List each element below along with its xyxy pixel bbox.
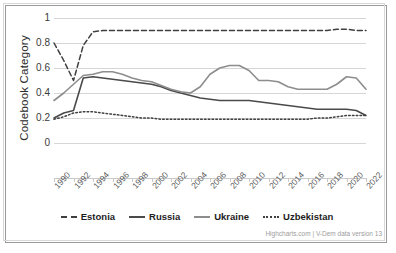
x-axis-tick-label: 1990 (52, 170, 72, 191)
chart-frame: Codebook Category 00.20.40.60.81 1990199… (5, 5, 387, 243)
chart-container: Codebook Category 00.20.40.60.81 1990199… (6, 6, 388, 244)
x-axis-tick-label: 2014 (286, 170, 306, 191)
x-axis-tick-label: 2022 (364, 170, 384, 191)
y-axis-tick-label: 0.6 (10, 63, 50, 73)
x-axis-tick-label: 2002 (169, 170, 189, 191)
legend-item-uzbekistan[interactable]: Uzbekistan (263, 211, 333, 222)
x-axis-tick-label: 1992 (72, 170, 92, 191)
x-axis-tick-label: 1996 (111, 170, 131, 191)
series-lines (54, 18, 366, 143)
legend-label: Estonia (81, 211, 115, 222)
x-axis-tick-label: 2018 (325, 170, 345, 191)
x-axis-tick-label: 1994 (91, 170, 111, 191)
x-axis-tick-label: 2016 (306, 170, 326, 191)
y-axis-tick-label: 1 (10, 13, 50, 23)
x-axis-tick-label: 2008 (228, 170, 248, 191)
legend-symbol-icon (263, 216, 279, 218)
x-axis-tick-label: 2006 (208, 170, 228, 191)
x-axis-tick-label: 2012 (267, 170, 287, 191)
chart-legend: EstoniaRussiaUkraineUzbekistan (6, 211, 388, 222)
x-axis-tick-label: 2020 (345, 170, 365, 191)
series-line-ukraine (54, 66, 366, 101)
legend-item-ukraine[interactable]: Ukraine (194, 211, 249, 222)
x-axis-tick-label: 2010 (247, 170, 267, 191)
x-axis-tick-label: 2004 (189, 170, 209, 191)
gridline (54, 143, 366, 144)
legend-item-russia[interactable]: Russia (129, 211, 180, 222)
legend-item-estonia[interactable]: Estonia (61, 211, 115, 222)
credits-text: Highcharts.com | V-Dem data version 13 (265, 230, 382, 237)
legend-symbol-icon (194, 216, 210, 218)
legend-label: Russia (149, 211, 180, 222)
x-axis-tick-label: 1998 (130, 170, 150, 191)
legend-label: Ukraine (214, 211, 249, 222)
legend-symbol-icon (61, 216, 77, 218)
y-axis-tick-label: 0.4 (10, 88, 50, 98)
legend-label: Uzbekistan (283, 211, 333, 222)
y-axis-tick-label: 0.8 (10, 38, 50, 48)
plot-area (54, 18, 366, 143)
series-line-russia (54, 77, 366, 118)
y-axis-tick-label: 0.2 (10, 113, 50, 123)
series-line-uzbekistan (54, 112, 366, 120)
y-axis-tick-label: 0 (10, 138, 50, 148)
x-axis-tick-label: 2000 (150, 170, 170, 191)
legend-symbol-icon (129, 216, 145, 218)
